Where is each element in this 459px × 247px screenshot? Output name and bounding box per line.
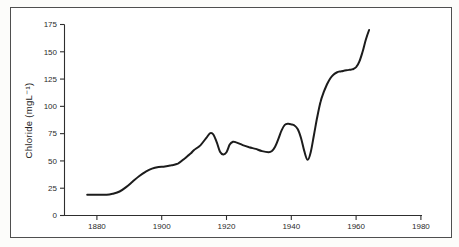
x-tick-label: 1980 <box>412 222 430 231</box>
y-tick-label: 50 <box>48 157 57 166</box>
x-tick-label: 1880 <box>88 222 106 231</box>
chloride-line-chart: 0255075100125150175188019001920194019601… <box>11 8 450 236</box>
y-tick-label: 175 <box>44 20 58 29</box>
chloride-series-line <box>87 30 369 195</box>
y-tick-label: 75 <box>48 129 57 138</box>
x-tick-label: 1900 <box>153 222 171 231</box>
y-tick-label: 100 <box>44 102 58 111</box>
y-tick-label: 125 <box>44 75 58 84</box>
y-tick-label: 25 <box>48 184 57 193</box>
x-tick-label: 1920 <box>218 222 236 231</box>
y-tick-label: 150 <box>44 48 58 57</box>
x-tick-label: 1940 <box>282 222 300 231</box>
y-tick-label: 0 <box>53 211 58 220</box>
x-tick-label: 1960 <box>347 222 365 231</box>
figure-frame: Chloride (mgL⁻¹) 02550751001251501751880… <box>10 7 452 238</box>
